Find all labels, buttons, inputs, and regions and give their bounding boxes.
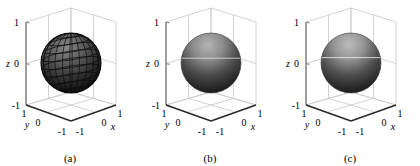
y-tick-label-one-a: 1 [22,108,27,119]
y-tick-label-zero-c: 0 [316,117,321,128]
y-tick-label-minus-b: -1 [198,126,206,137]
plot-svg-a: 1 0 -1 z 1 0 -1 y -1 0 1 x [0,0,140,140]
z-tick-label-top-b: 1 [154,17,159,28]
panel-c: 1 0 -1 z 1 0 -1 y -1 0 1 x (c) [280,0,420,166]
z-axis-label-c: z [285,58,290,69]
y-axis-label-c: y [304,119,310,130]
x-axis-label-a: x [110,121,116,132]
y-tick-label-zero-a: 0 [36,117,41,128]
panel-caption-b: (b) [140,152,280,164]
x-tick-label-minus-c: -1 [356,126,364,137]
y-tick-label-minus-c: -1 [338,126,346,137]
z-tick-label-bottom-a: -1 [12,100,20,111]
z-tick-label-mid-a: 0 [14,58,19,69]
sphere-shaded-b [181,33,241,93]
panel-a: 1 0 -1 z 1 0 -1 y -1 0 1 x (a) [0,0,140,166]
x-tick-label-minus-a: -1 [76,126,84,137]
y-tick-label-minus-a: -1 [58,126,66,137]
y-tick-label-zero-b: 0 [176,117,181,128]
x-tick-label-zero-a: 0 [102,117,107,128]
x-tick-label-one-a: 1 [118,108,123,119]
z-axis-label-a: z [5,58,10,69]
y-tick-label-one-b: 1 [162,108,167,119]
sphere-mesh-a [41,29,102,96]
plot-svg-b: 1 0 -1 z 1 0 -1 y -1 0 1 x [140,0,280,140]
x-tick-label-zero-b: 0 [242,117,247,128]
z-axis-label-b: z [145,58,150,69]
y-axis-label-b: y [164,119,170,130]
plot-area-c: 1 0 -1 z 1 0 -1 y -1 0 1 x [280,0,420,140]
z-tick-label-mid-c: 0 [294,58,299,69]
plot-area-a: 1 0 -1 z 1 0 -1 y -1 0 1 x [0,0,140,140]
plot-svg-c: 1 0 -1 z 1 0 -1 y -1 0 1 x [280,0,420,140]
panel-caption-c: (c) [280,152,420,164]
z-tick-label-bottom-b: -1 [152,100,160,111]
panel-b: 1 0 -1 z 1 0 -1 y -1 0 1 x (b) [140,0,280,166]
y-tick-label-one-c: 1 [302,108,307,119]
plot-area-b: 1 0 -1 z 1 0 -1 y -1 0 1 x [140,0,280,140]
sphere-shaded-c [321,33,381,93]
z-tick-label-mid-b: 0 [154,58,159,69]
x-tick-label-one-b: 1 [258,108,263,119]
x-tick-label-zero-c: 0 [382,117,387,128]
z-tick-label-top-c: 1 [294,17,299,28]
panel-caption-a: (a) [0,152,140,164]
x-axis-label-b: x [250,121,256,132]
x-axis-label-c: x [390,121,396,132]
z-tick-label-top-a: 1 [14,17,19,28]
x-tick-label-one-c: 1 [398,108,403,119]
x-tick-label-minus-b: -1 [216,126,224,137]
y-axis-label-a: y [24,119,30,130]
figure-three-sphere-plots: 1 0 -1 z 1 0 -1 y -1 0 1 x (a) [0,0,420,166]
z-tick-label-bottom-c: -1 [292,100,300,111]
